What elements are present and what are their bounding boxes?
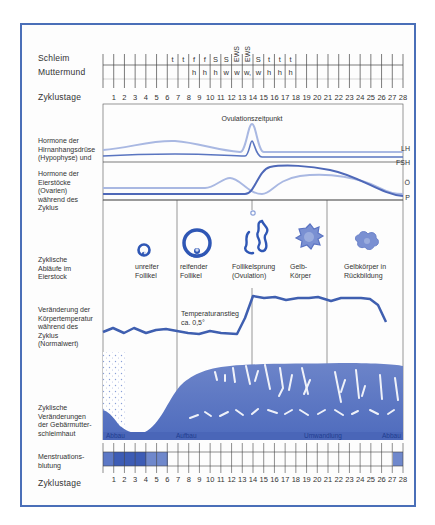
- temperature-curve: [103, 296, 386, 334]
- day-label: 9: [197, 475, 201, 484]
- day-label: 24: [356, 93, 364, 102]
- day-label: 21: [324, 93, 332, 102]
- stage-4-label: Gelb-: [290, 263, 308, 270]
- stage-2-label: reifender: [180, 263, 208, 270]
- stage-3-label: Follikelsprung: [232, 263, 275, 271]
- schleim-mark: S: [213, 55, 218, 64]
- muttermund-mark: h: [192, 68, 196, 77]
- day-label: 2: [122, 475, 126, 484]
- phase-umwandlung: Umwandlung: [304, 432, 342, 440]
- svg-text:Körper: Körper: [290, 272, 312, 280]
- egg-cell-icon: [251, 211, 255, 215]
- day-label: 16: [270, 475, 278, 484]
- muttermund-mark: h: [203, 68, 207, 77]
- oestrogen-curve: [103, 175, 403, 194]
- days-bottom: 1234567891011121314151617181920212223242…: [112, 475, 408, 484]
- phase-abbau-2: Abbau: [382, 432, 401, 439]
- svg-text:Follikel: Follikel: [180, 272, 202, 279]
- day-label: 16: [270, 93, 278, 102]
- day-label: 8: [187, 475, 191, 484]
- day-label: 27: [388, 475, 396, 484]
- day-label: 6: [165, 475, 169, 484]
- day-label: 3: [133, 475, 137, 484]
- muttermund-mark: w,: [243, 68, 251, 77]
- day-label: 10: [206, 475, 214, 484]
- day-label: 7: [176, 93, 180, 102]
- day-label: 4: [144, 93, 148, 102]
- day-label: 13: [238, 475, 246, 484]
- day-label: 28: [399, 93, 407, 102]
- day-label: 24: [356, 475, 364, 484]
- phase-abbau-1: Abbau: [106, 432, 125, 439]
- ovulation-follicle-icon: [245, 221, 267, 253]
- muttermund-mark: w: [223, 68, 230, 77]
- ovulation-label: Ovulationszeitpunkt: [221, 115, 282, 123]
- day-label: 14: [249, 475, 257, 484]
- day-label: 7: [176, 475, 180, 484]
- day-label: 23: [345, 93, 353, 102]
- lh-label: LH: [401, 145, 410, 152]
- day-label: 1: [112, 475, 116, 484]
- day-label: 25: [367, 475, 375, 484]
- day-label: 20: [313, 475, 321, 484]
- day-label: 6: [165, 93, 169, 102]
- muttermund-mark: h: [267, 68, 271, 77]
- schleim-mark: f: [193, 55, 196, 64]
- day-label: 18: [292, 93, 300, 102]
- unripe-follicle-icon: [139, 245, 150, 257]
- svg-text:(Ovulation): (Ovulation): [232, 272, 266, 280]
- day-label: 14: [249, 93, 257, 102]
- lh-curve: [103, 124, 403, 152]
- day-label: 26: [377, 475, 385, 484]
- cycle-diagram: ttffSSEWSEWSSttt hhhwww,whhh 12345678910…: [0, 0, 435, 525]
- fsh-label: FSH: [396, 159, 410, 166]
- day-label: 1: [112, 93, 116, 102]
- progesterone-label: P: [405, 194, 410, 201]
- day-label: 17: [281, 93, 289, 102]
- day-label: 12: [227, 475, 235, 484]
- day-label: 27: [388, 93, 396, 102]
- day-label: 10: [206, 93, 214, 102]
- day-label: 3: [133, 93, 137, 102]
- day-label: 18: [292, 475, 300, 484]
- schleim-mark: f: [204, 55, 207, 64]
- phase-aufbau: Aufbau: [176, 432, 197, 439]
- day-label: 13: [238, 93, 246, 102]
- day-label: 19: [302, 93, 310, 102]
- day-label: 28: [399, 475, 407, 484]
- day-label: 5: [154, 475, 158, 484]
- schleim-mark: EWS: [233, 46, 240, 62]
- temperature-rise-label: Temperaturanstieg: [181, 310, 239, 318]
- day-label: 22: [335, 475, 343, 484]
- schleim-mark: t: [268, 55, 271, 64]
- day-label: 4: [144, 475, 148, 484]
- muttermund-mark: h: [288, 68, 292, 77]
- schleim-mark: EWS: [244, 46, 251, 62]
- schleim-mark: S: [256, 55, 261, 64]
- day-label: 19: [302, 475, 310, 484]
- day-label: 12: [227, 93, 235, 102]
- schleim-mark: t: [182, 55, 185, 64]
- muttermund-mark: w: [233, 68, 240, 77]
- schleim-mark: t: [172, 55, 175, 64]
- muttermund-mark: h: [278, 68, 282, 77]
- schleim-mark: t: [279, 55, 282, 64]
- day-label: 17: [281, 475, 289, 484]
- regressing-corpus-luteum-icon: [355, 232, 378, 250]
- day-label: 23: [345, 475, 353, 484]
- stage-5-label: Gelbkörper in: [344, 263, 386, 271]
- day-label: 11: [217, 475, 225, 484]
- day-label: 22: [335, 93, 343, 102]
- top-grid: [103, 54, 403, 88]
- day-label: 20: [313, 93, 321, 102]
- muttermund-mark: h: [213, 68, 217, 77]
- muttermund-mark: w: [255, 68, 262, 77]
- day-label: 9: [197, 93, 201, 102]
- day-label: 2: [122, 93, 126, 102]
- svg-text:Rückbildung: Rückbildung: [344, 272, 383, 280]
- menstruation-bar: [103, 443, 403, 473]
- day-label: 11: [217, 93, 225, 102]
- ripening-follicle-icon: [184, 230, 210, 258]
- days-top: 1234567891011121314151617181920212223242…: [112, 93, 408, 102]
- endometrium-visual: [103, 352, 403, 440]
